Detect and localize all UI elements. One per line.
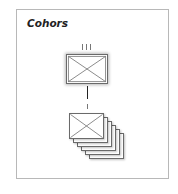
size-marker-tick <box>82 44 83 50</box>
infantry-cross-icon <box>70 114 103 138</box>
size-marker-tick <box>86 44 87 50</box>
bottom-unit-symbol <box>69 113 104 139</box>
diagram-title: Cohors <box>27 17 68 29</box>
size-marker-tick <box>90 44 91 50</box>
size-marker-tick <box>87 104 88 109</box>
infantry-cross-icon <box>67 55 107 83</box>
connector-line <box>87 86 88 99</box>
top-unit-symbol <box>66 54 108 84</box>
